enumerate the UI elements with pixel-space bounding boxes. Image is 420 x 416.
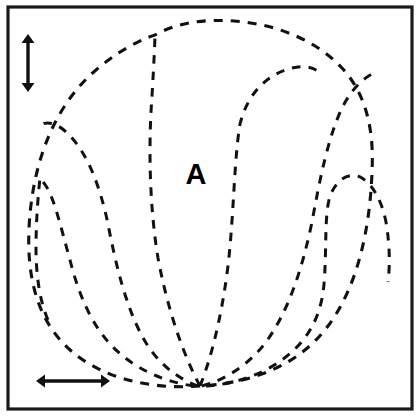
label-group: A [186,158,207,190]
figure-container: A [0,0,420,416]
diagram-canvas: A [0,0,420,416]
label-region-a: A [186,158,207,190]
